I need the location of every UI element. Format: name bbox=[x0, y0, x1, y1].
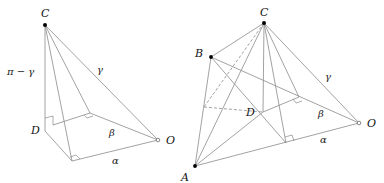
label-B: B bbox=[194, 47, 203, 60]
point-C bbox=[43, 23, 47, 27]
label-C: C bbox=[260, 6, 269, 19]
dashed-C-P bbox=[204, 23, 264, 107]
label-alpha: α bbox=[320, 134, 327, 145]
edge-C-foot-alpha bbox=[264, 23, 286, 143]
left-figure: C D O π − γ γ β α bbox=[6, 7, 175, 166]
right-angle-mark-D bbox=[45, 116, 53, 125]
right-angle-mark-beta bbox=[293, 99, 302, 103]
edge-C-D bbox=[263, 23, 264, 112]
label-gamma: γ bbox=[325, 71, 331, 82]
edge-A-O bbox=[195, 123, 359, 166]
label-beta: β bbox=[108, 127, 115, 138]
edge-A-D bbox=[195, 112, 263, 166]
label-A: A bbox=[180, 171, 189, 183]
label-O: O bbox=[166, 134, 175, 147]
label-gamma: γ bbox=[97, 64, 103, 75]
label-D: D bbox=[30, 124, 40, 137]
label-pi-minus-gamma: π − γ bbox=[6, 66, 34, 77]
label-C: C bbox=[41, 7, 50, 20]
right-angle-mark-beta bbox=[84, 115, 93, 118]
right-figure: C B A D O γ β α bbox=[180, 6, 376, 183]
label-O: O bbox=[367, 117, 376, 130]
edge-D-bottom bbox=[45, 131, 72, 161]
diagram-canvas: C D O π − γ γ β α C bbox=[0, 0, 384, 183]
point-C bbox=[262, 21, 266, 25]
label-D: D bbox=[245, 106, 255, 119]
point-O bbox=[156, 138, 160, 142]
edge-C-foot-beta bbox=[264, 23, 299, 97]
label-alpha: α bbox=[112, 155, 119, 166]
point-A bbox=[193, 164, 197, 168]
edge-B-foot-alpha bbox=[211, 57, 286, 143]
edge-C-bottom bbox=[45, 25, 72, 161]
label-beta: β bbox=[317, 108, 324, 119]
edge-D-foot-beta bbox=[53, 113, 90, 125]
edge-C-O bbox=[264, 23, 359, 123]
point-B bbox=[209, 55, 213, 59]
point-O bbox=[357, 121, 361, 125]
edge-C-foot-beta bbox=[45, 25, 90, 113]
edge-foot-beta-O bbox=[90, 113, 158, 140]
edge-C-O bbox=[45, 25, 158, 140]
